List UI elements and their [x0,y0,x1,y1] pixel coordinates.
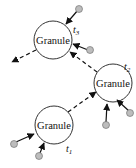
input-dot [36,153,43,160]
input-dot [76,6,83,13]
granule-t2: Granule t2 [94,61,132,102]
time-label-t1: t1 [66,143,72,156]
input-edge [16,134,34,142]
input-dot [11,141,18,148]
input-edge [66,10,78,24]
input-dot [127,110,134,117]
time-label-t3: t3 [73,24,80,37]
granule-t3-label: Granule [36,35,70,46]
granule-t1: Granule t1 [35,106,73,156]
granule-t1-label: Granule [37,120,71,131]
input-dot [103,122,110,129]
granule-t3: Granule t3 [34,21,80,59]
granule-evolution-diagram: Granule t3 Granule t2 Granule t1 [0,0,136,168]
input-edge [106,104,107,122]
edge-g3-to-output [12,50,36,62]
input-edge [73,44,88,50]
edge-g1-to-g2 [68,92,96,112]
granule-t2-label: Granule [96,78,130,89]
input-edge [40,143,44,153]
input-edge [117,100,129,111]
edge-g2-to-g3 [70,52,97,72]
input-dot [87,47,94,54]
